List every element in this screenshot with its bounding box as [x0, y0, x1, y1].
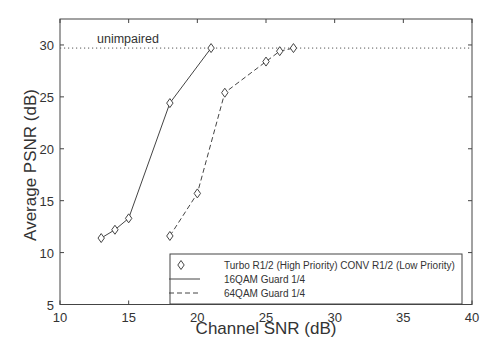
y-tick-label: 10 — [40, 246, 54, 261]
y-tick-label: 15 — [40, 194, 54, 209]
y-axis-label: Average PSNR (dB) — [21, 89, 40, 241]
diamond-marker — [277, 47, 283, 56]
x-tick-label: 40 — [465, 310, 479, 325]
diamond-marker — [263, 57, 269, 66]
y-tick-label: 30 — [40, 38, 54, 53]
diamond-marker — [222, 88, 228, 97]
diamond-marker — [98, 234, 104, 243]
data-series — [98, 44, 297, 243]
x-tick-label: 35 — [396, 310, 410, 325]
legend-label-marker: Turbo R1/2 (High Priority) CONV R1/2 (Lo… — [224, 260, 455, 271]
x-tick-label: 10 — [53, 310, 67, 325]
diamond-marker — [290, 44, 296, 53]
series-64qam-guard-1-4 — [167, 44, 297, 241]
x-tick-label: 15 — [121, 310, 135, 325]
x-axis-label: Channel SNR (dB) — [196, 319, 337, 338]
y-tick-label: 20 — [40, 142, 54, 157]
y-tick-label: 5 — [47, 298, 54, 313]
legend-label-16qam: 16QAM Guard 1/4 — [224, 274, 306, 285]
y-tick-label: 25 — [40, 90, 54, 105]
legend-label-64qam: 64QAM Guard 1/4 — [224, 288, 306, 299]
psnr-vs-snr-chart: 1015202530354051015202530 unimpaired Cha… — [0, 0, 498, 356]
diamond-marker — [112, 225, 118, 234]
series-16qam-guard-1-4 — [98, 44, 214, 243]
diamond-marker — [125, 214, 131, 223]
unimpaired-label: unimpaired — [97, 32, 159, 46]
diamond-marker — [194, 189, 200, 198]
